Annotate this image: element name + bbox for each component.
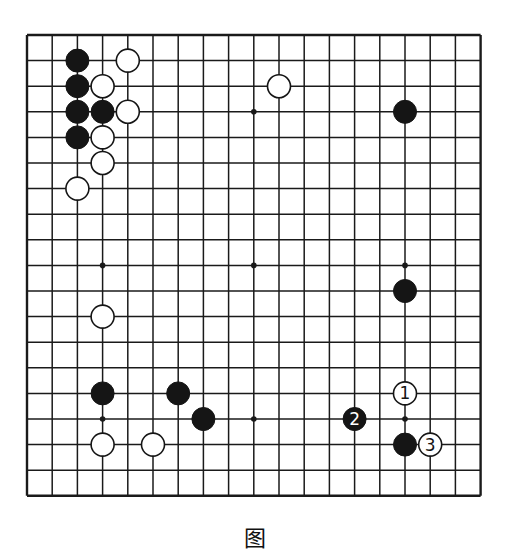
white-stone — [142, 433, 165, 456]
black-stone — [66, 75, 89, 98]
star-point — [251, 416, 257, 422]
black-stone — [394, 280, 417, 303]
white-stone: 3 — [419, 433, 442, 456]
black-stone — [167, 382, 190, 405]
black-stone — [394, 433, 417, 456]
star-point — [402, 263, 408, 269]
go-board: 213 — [0, 0, 509, 520]
white-stone — [91, 305, 114, 328]
white-stone — [66, 177, 89, 200]
black-stone — [66, 100, 89, 123]
black-stone — [91, 100, 114, 123]
star-point — [251, 109, 257, 115]
white-stone — [91, 152, 114, 175]
white-stone — [91, 126, 114, 149]
diagram-caption: 图 — [0, 528, 509, 550]
move-number-label: 2 — [349, 409, 360, 429]
white-stone: 1 — [394, 382, 417, 405]
star-point — [100, 263, 106, 269]
black-stone — [394, 100, 417, 123]
move-number-label: 1 — [400, 383, 411, 403]
black-stone — [192, 408, 215, 431]
move-number-label: 3 — [425, 435, 436, 455]
white-stone — [268, 75, 291, 98]
star-point — [251, 263, 257, 269]
black-stone — [66, 49, 89, 72]
white-stone — [91, 75, 114, 98]
white-stone — [91, 433, 114, 456]
star-point — [100, 416, 106, 422]
black-stone — [66, 126, 89, 149]
white-stone — [116, 100, 139, 123]
black-stone: 2 — [343, 408, 366, 431]
black-stone — [91, 382, 114, 405]
white-stone — [116, 49, 139, 72]
star-point — [402, 416, 408, 422]
